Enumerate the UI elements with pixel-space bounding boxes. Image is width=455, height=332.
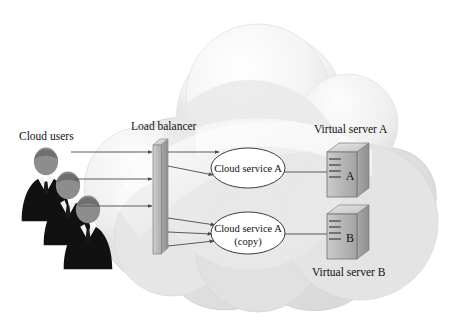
load-balancer-side-face bbox=[161, 139, 168, 254]
cloud-architecture-diagram: Cloud users Load balancer Cloud service … bbox=[0, 0, 455, 332]
cloud-service-a-copy-label-line1: Cloud service A bbox=[214, 223, 282, 234]
load-balancer-front-face bbox=[153, 145, 162, 254]
virtual-server-a-side-face bbox=[357, 143, 369, 197]
cloud-service-a-copy[interactable]: Cloud service A (copy) bbox=[211, 212, 285, 254]
virtual-server-b-label: Virtual server B bbox=[312, 266, 386, 278]
diagram-canvas: Cloud users Load balancer Cloud service … bbox=[0, 0, 455, 332]
virtual-server-a-label: Virtual server A bbox=[314, 123, 388, 135]
virtual-server-a-letter: A bbox=[346, 169, 355, 183]
cloud-users-label: Cloud users bbox=[19, 130, 74, 142]
virtual-server-b-side-face bbox=[357, 205, 369, 259]
load-balancer-label: Load balancer bbox=[131, 120, 197, 132]
cloud-service-a-copy-label-line2: (copy) bbox=[234, 236, 262, 248]
virtual-server-b-letter: B bbox=[346, 231, 354, 245]
cloud-service-a[interactable]: Cloud service A bbox=[211, 148, 285, 188]
cloud-service-a-label: Cloud service A bbox=[214, 163, 282, 174]
